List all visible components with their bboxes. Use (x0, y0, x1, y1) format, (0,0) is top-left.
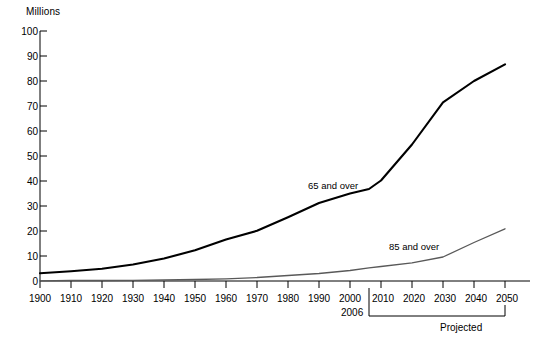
series-line-65-and-over (40, 64, 505, 273)
series-line-85-and-over (40, 229, 505, 281)
x-axis-ticks (40, 281, 505, 288)
projection-bracket (369, 305, 505, 316)
chart-canvas (0, 0, 554, 337)
population-projection-chart: Millions 100 90 80 70 60 50 40 30 20 10 … (0, 0, 554, 337)
y-axis-ticks (40, 56, 47, 256)
